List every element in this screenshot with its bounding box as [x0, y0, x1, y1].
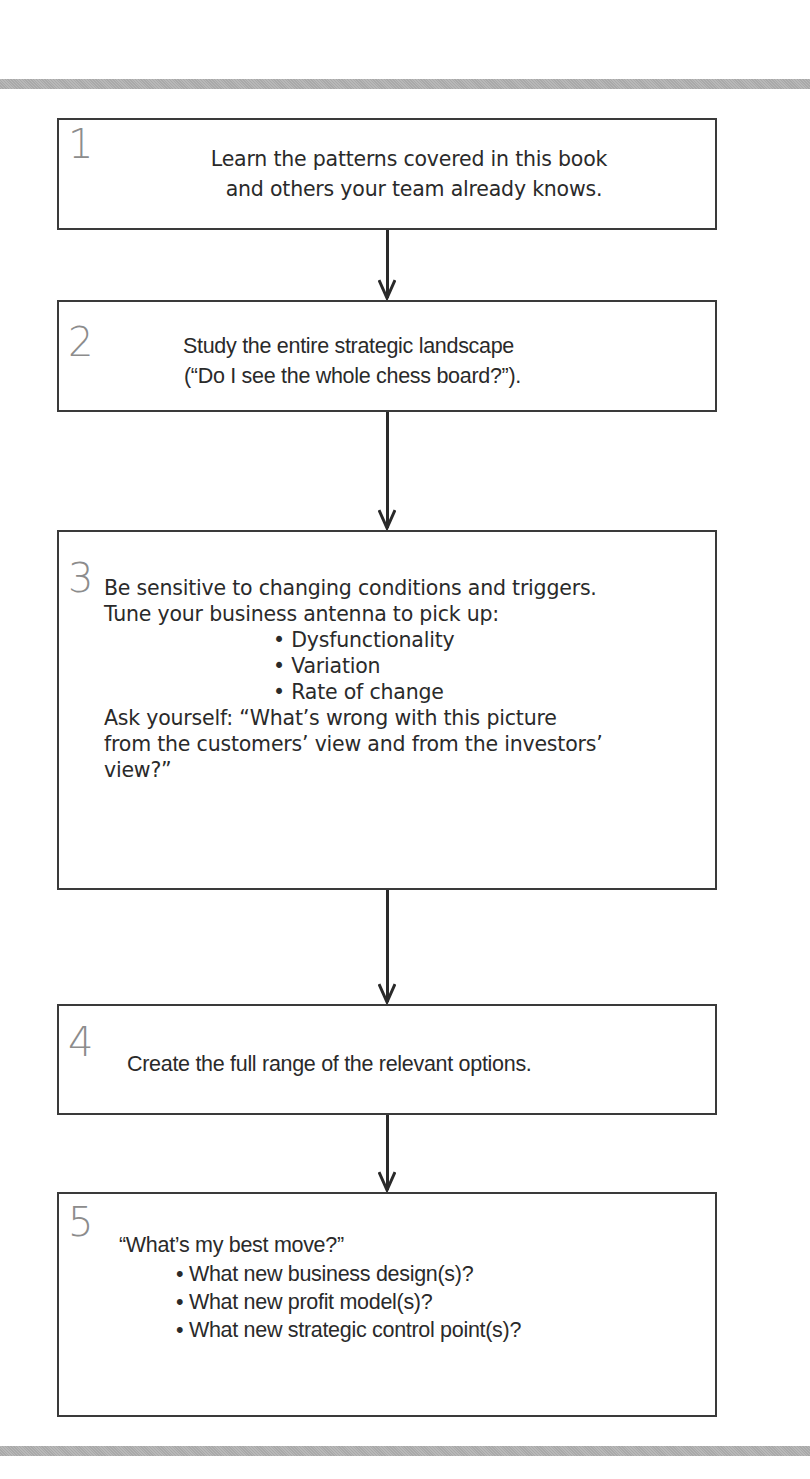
step-5-intro: “What’s my best move?” — [119, 1231, 344, 1259]
step-4-number: 4 — [68, 1022, 93, 1062]
step-2-number: 2 — [68, 322, 93, 362]
bullet-icon: • — [176, 1318, 183, 1342]
step-3-outro-line-3: view?” — [104, 757, 603, 783]
step-5-bullet: • What new strategic control point(s)? — [176, 1316, 521, 1344]
step-4-box: 4 Create the full range of the relevant … — [57, 1004, 717, 1115]
step-2-box: 2 Study the entire strategic landscape (… — [57, 300, 717, 412]
step-2-text: Study the entire strategic landscape (“D… — [183, 331, 521, 391]
bottom-rule-bar — [0, 1446, 810, 1456]
arrow-down-icon — [378, 412, 396, 530]
bullet-icon: • — [176, 1262, 183, 1286]
step-5-bullet-list: • What new business design(s)? • What ne… — [176, 1260, 521, 1344]
step-1-line-1: Learn the patterns covered in this book — [59, 144, 719, 174]
bullet-icon: • — [176, 1290, 183, 1314]
step-3-outro-line-2: from the customers’ view and from the in… — [104, 731, 603, 757]
step-3-bullet: • Variation — [273, 653, 455, 679]
step-3-bullet: • Dysfunctionality — [273, 627, 455, 653]
step-2-line-2: (“Do I see the whole chess board?”). — [183, 361, 521, 391]
step-5-bullet: • What new business design(s)? — [176, 1260, 521, 1288]
step-5-number: 5 — [68, 1202, 93, 1242]
arrow-down-icon — [378, 230, 396, 300]
step-3-outro-line-1: Ask yourself: “What’s wrong with this pi… — [104, 705, 603, 731]
step-1-line-2: and others your team already knows. — [59, 174, 719, 204]
arrow-down-icon — [378, 890, 396, 1004]
bullet-icon: • — [273, 680, 285, 704]
step-4-line-1: Create the full range of the relevant op… — [127, 1051, 532, 1077]
step-1-text: Learn the patterns covered in this book … — [59, 144, 719, 204]
step-5-bullet: • What new profit model(s)? — [176, 1288, 521, 1316]
step-3-outro: Ask yourself: “What’s wrong with this pi… — [104, 705, 603, 783]
bullet-icon: • — [273, 654, 285, 678]
step-3-intro: Be sensitive to changing conditions and … — [104, 575, 597, 627]
arrow-down-icon — [378, 1115, 396, 1192]
top-rule-bar — [0, 79, 810, 89]
step-3-box: 3 Be sensitive to changing conditions an… — [57, 530, 717, 890]
bullet-icon: • — [273, 628, 285, 652]
step-5-intro-line-1: “What’s my best move?” — [119, 1231, 344, 1259]
step-1-box: 1 Learn the patterns covered in this boo… — [57, 118, 717, 230]
step-3-intro-line-2: Tune your business antenna to pick up: — [104, 601, 597, 627]
step-3-intro-line-1: Be sensitive to changing conditions and … — [104, 575, 597, 601]
step-4-text: Create the full range of the relevant op… — [127, 1051, 532, 1077]
step-3-bullet: • Rate of change — [273, 679, 455, 705]
step-3-bullet-list: • Dysfunctionality • Variation • Rate of… — [273, 627, 455, 705]
step-3-number: 3 — [68, 558, 93, 598]
step-2-line-1: Study the entire strategic landscape — [183, 331, 521, 361]
step-5-box: 5 “What’s my best move?” • What new busi… — [57, 1192, 717, 1417]
